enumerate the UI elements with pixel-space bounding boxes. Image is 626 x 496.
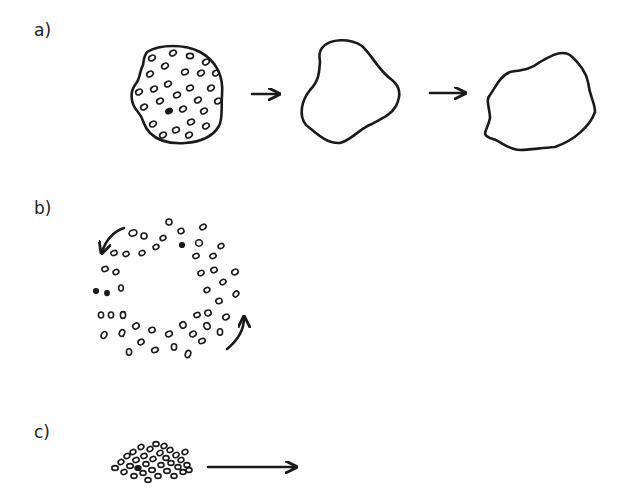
panel-b — [94, 219, 244, 358]
cell-cluster — [112, 442, 192, 483]
outline-stage-3 — [485, 53, 595, 150]
rotation-arrow-icon — [102, 228, 124, 252]
rotation-arrow-icon — [227, 318, 244, 349]
outline-stage-2 — [302, 40, 400, 143]
ring-cells — [94, 219, 240, 358]
diagram-canvas: a) b) c) — [0, 0, 626, 496]
aggregate-cells — [135, 49, 223, 139]
panel-c — [112, 442, 295, 483]
diagram-drawing — [0, 0, 626, 496]
panel-a — [132, 40, 595, 150]
